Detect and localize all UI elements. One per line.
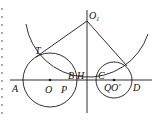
label-A: A xyxy=(11,83,19,94)
label-O: O xyxy=(45,84,52,95)
label-D: D xyxy=(132,82,141,93)
geometry-diagram: O1 T A O P B H C Q O' D xyxy=(0,0,161,126)
line-O1-T xyxy=(36,21,87,57)
label-C: C xyxy=(98,70,105,81)
line-O1-tangent-right xyxy=(87,21,127,66)
label-H: H xyxy=(76,70,85,81)
label-P: P xyxy=(60,84,67,95)
label-B: B xyxy=(68,70,74,81)
label-O1: O1 xyxy=(89,10,99,22)
point-O xyxy=(49,79,52,82)
point-O-prime xyxy=(113,79,116,82)
label-O-prime: O' xyxy=(111,82,121,93)
